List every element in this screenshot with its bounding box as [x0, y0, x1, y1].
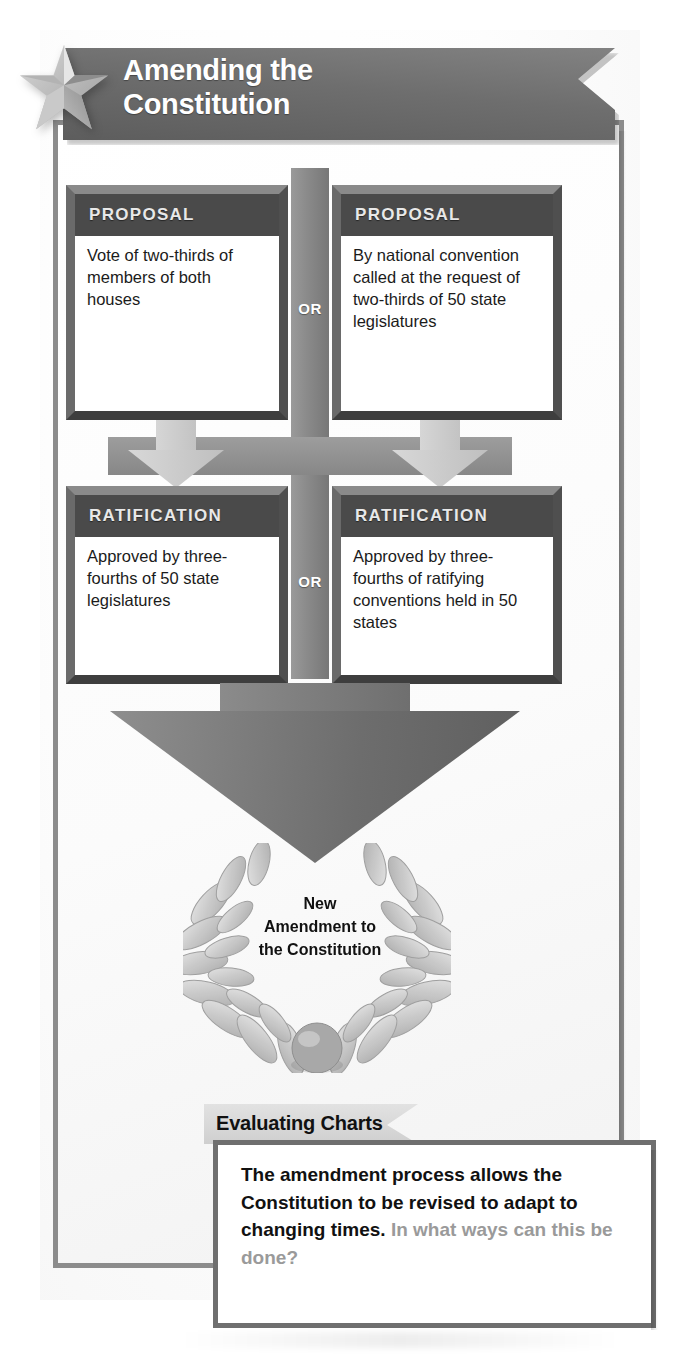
arrow-down-result	[110, 683, 520, 863]
ratification-node-left[interactable]: RATIFICATION Approved by three-fourths o…	[66, 486, 288, 684]
callout-tab: Evaluating Charts	[204, 1104, 418, 1144]
arrow-down-left	[128, 420, 228, 492]
arrow-down-right	[392, 420, 492, 492]
title-banner: Amending the Constitution	[63, 48, 615, 140]
callout-box: The amendment process allows the Constit…	[213, 1140, 656, 1328]
node-inner: RATIFICATION Approved by three-fourths o…	[75, 495, 279, 675]
diagram-canvas: Amending the Constitution OR OR	[0, 0, 691, 1358]
node-header: PROPOSAL	[75, 194, 279, 236]
or-label-proposal: OR	[291, 300, 329, 317]
or-spine	[291, 168, 329, 679]
page-smudge	[180, 1332, 620, 1348]
node-header: PROPOSAL	[341, 194, 553, 236]
proposal-node-left[interactable]: PROPOSAL Vote of two-thirds of members o…	[66, 185, 288, 420]
result-label: New Amendment to the Constitution	[205, 892, 435, 962]
sphere-icon	[291, 1023, 343, 1073]
node-header: RATIFICATION	[75, 495, 279, 537]
node-header: RATIFICATION	[341, 495, 553, 537]
node-body: Approved by three-fourths of ratifying c…	[341, 537, 553, 675]
star-icon	[16, 41, 112, 137]
node-inner: RATIFICATION Approved by three-fourths o…	[341, 495, 553, 675]
or-label-ratification: OR	[291, 573, 329, 590]
proposal-node-right[interactable]: PROPOSAL By national convention called a…	[332, 185, 562, 420]
node-inner: PROPOSAL Vote of two-thirds of members o…	[75, 194, 279, 411]
title-line-1: Amending the	[123, 54, 551, 88]
node-body: Vote of two-thirds of members of both ho…	[75, 236, 279, 411]
result-line-3: the Constitution	[205, 938, 435, 961]
callout-tab-label: Evaluating Charts	[216, 1112, 383, 1135]
node-inner: PROPOSAL By national convention called a…	[341, 194, 553, 411]
ratification-node-right[interactable]: RATIFICATION Approved by three-fourths o…	[332, 486, 562, 684]
node-body: Approved by three-fourths of 50 state le…	[75, 537, 279, 675]
page-title: Amending the Constitution	[123, 54, 551, 122]
result-line-2: Amendment to	[205, 915, 435, 938]
title-line-2: Constitution	[123, 88, 551, 122]
callout-text: The amendment process allows the Constit…	[241, 1161, 633, 1271]
result-line-1: New	[205, 892, 435, 915]
node-body: By national convention called at the req…	[341, 236, 553, 411]
